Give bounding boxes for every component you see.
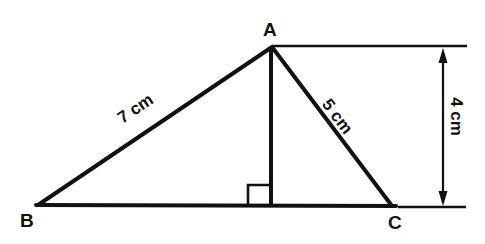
right-angle-marker bbox=[248, 185, 271, 206]
arrowhead-up-icon bbox=[439, 48, 448, 63]
vertex-label-b: B bbox=[20, 211, 34, 230]
triangle-side-bc bbox=[36, 205, 396, 206]
triangle-side-ac bbox=[272, 47, 392, 206]
triangle-side-ab bbox=[38, 47, 272, 205]
height-dimension-label: 4 cm bbox=[448, 97, 465, 136]
geometry-canvas bbox=[0, 0, 485, 244]
vertex-label-a: A bbox=[263, 20, 277, 39]
triangle-diagram: A B C 7 cm 5 cm 4 cm bbox=[0, 0, 485, 244]
arrowhead-down-icon bbox=[439, 191, 448, 206]
vertex-label-c: C bbox=[388, 213, 402, 232]
